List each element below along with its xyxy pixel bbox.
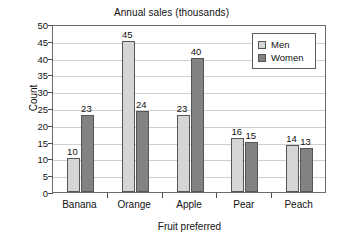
x-axis-title: Fruit preferred xyxy=(52,221,327,232)
y-tick-label: 20 xyxy=(28,120,48,131)
y-tick-mark xyxy=(48,25,53,26)
y-tick-mark xyxy=(48,193,53,194)
x-category-label-orange: Orange xyxy=(118,199,151,210)
x-category-label-pear: Pear xyxy=(233,199,254,210)
y-tick-label: 35 xyxy=(28,70,48,81)
chart-legend: MenWomen xyxy=(252,33,316,69)
x-category-label-apple: Apple xyxy=(176,199,202,210)
bar-value-label: 24 xyxy=(136,99,147,110)
gridline xyxy=(53,110,325,111)
bar-value-label: 45 xyxy=(122,29,133,40)
y-tick-mark xyxy=(48,92,53,93)
y-tick-label: 5 xyxy=(28,171,48,182)
y-tick-mark xyxy=(48,59,53,60)
y-tick-label: 0 xyxy=(28,188,48,199)
bar-chart: Annual sales (thousands) Count 051015202… xyxy=(0,0,343,245)
y-tick-mark xyxy=(48,143,53,144)
y-tick-label: 45 xyxy=(28,36,48,47)
y-tick-mark xyxy=(48,159,53,160)
y-tick-label: 25 xyxy=(28,104,48,115)
legend-label: Women xyxy=(271,52,304,63)
bar-banana-women xyxy=(81,115,94,192)
y-tick-mark xyxy=(48,42,53,43)
gridline xyxy=(53,93,325,94)
y-tick-label: 50 xyxy=(28,20,48,31)
x-tick-mark xyxy=(271,193,272,198)
y-tick-label: 10 xyxy=(28,154,48,165)
gridline xyxy=(53,76,325,77)
y-tick-mark xyxy=(48,75,53,76)
bar-value-label: 23 xyxy=(81,103,92,114)
legend-swatch-icon xyxy=(258,41,266,49)
y-tick-label: 15 xyxy=(28,137,48,148)
chart-title: Annual sales (thousands) xyxy=(0,7,343,18)
bar-value-label: 14 xyxy=(286,133,297,144)
y-tick-mark xyxy=(48,109,53,110)
bar-value-label: 40 xyxy=(191,46,202,57)
x-tick-mark xyxy=(107,193,108,198)
y-tick-label: 30 xyxy=(28,87,48,98)
legend-item-women[interactable]: Women xyxy=(258,51,310,64)
bar-value-label: 10 xyxy=(67,146,78,157)
y-tick-mark xyxy=(48,126,53,127)
legend-swatch-icon xyxy=(258,54,266,62)
bar-apple-women xyxy=(191,58,204,192)
x-tick-mark xyxy=(216,193,217,198)
bar-apple-men xyxy=(177,115,190,192)
y-tick-label: 40 xyxy=(28,53,48,64)
bar-pear-women xyxy=(245,142,258,192)
bar-value-label: 15 xyxy=(246,130,257,141)
bar-orange-men xyxy=(122,41,135,192)
bar-peach-women xyxy=(300,148,313,192)
bar-peach-men xyxy=(286,145,299,192)
x-tick-mark xyxy=(162,193,163,198)
legend-item-men[interactable]: Men xyxy=(258,38,310,51)
bar-banana-men xyxy=(67,158,80,192)
bar-pear-men xyxy=(231,138,244,192)
bar-orange-women xyxy=(136,111,149,192)
bar-value-label: 13 xyxy=(300,136,311,147)
x-category-label-peach: Peach xyxy=(284,199,312,210)
y-tick-mark xyxy=(48,176,53,177)
bar-value-label: 23 xyxy=(177,103,188,114)
y-axis-tick-labels: 05101520253035404550 xyxy=(24,25,48,193)
bar-value-label: 16 xyxy=(232,126,243,137)
legend-label: Men xyxy=(271,39,289,50)
x-category-label-banana: Banana xyxy=(62,199,96,210)
